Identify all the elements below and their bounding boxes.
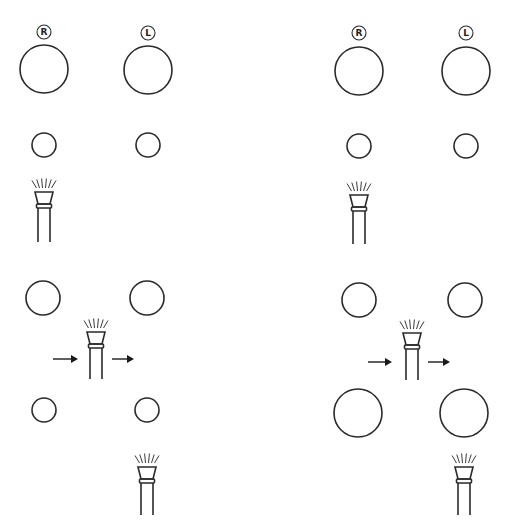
top-right-panel: R L	[335, 26, 490, 244]
badge-l: L	[141, 26, 155, 40]
badge-r: R	[352, 26, 366, 40]
small-circle-r	[32, 133, 56, 157]
nozzle-cup	[138, 467, 156, 479]
nozzle-collar	[352, 207, 367, 211]
small-circle-r	[32, 398, 56, 422]
large-circle-r	[335, 47, 383, 95]
arrow-right-icon	[368, 358, 392, 366]
badge-r-label: R	[41, 27, 48, 37]
badge-l-label: L	[145, 28, 151, 38]
spray-nozzle-icon	[135, 454, 159, 516]
top-left-panel: R L	[20, 25, 172, 242]
small-circle-r	[347, 134, 371, 158]
nozzle-collar	[37, 204, 52, 208]
nozzle-cup	[87, 332, 105, 344]
spray-rays	[84, 319, 108, 329]
badge-l-label: L	[463, 28, 469, 38]
badge-r: R	[37, 25, 51, 39]
spray-nozzle-icon	[452, 454, 476, 516]
nozzle-collar	[89, 344, 104, 348]
badge-l: L	[459, 26, 473, 40]
large-circle-r	[334, 389, 382, 437]
spray-nozzle-icon	[84, 319, 108, 380]
spray-nozzle-icon	[347, 182, 371, 245]
spray-rays	[32, 179, 56, 189]
spray-nozzle-icon	[400, 320, 424, 381]
medium-circle-r	[342, 283, 376, 317]
nozzle-cup	[403, 333, 421, 345]
nozzle-collar	[457, 479, 472, 483]
spray-rays	[135, 454, 159, 464]
arrow-right-icon	[112, 355, 134, 363]
arrow-right-icon	[53, 355, 78, 363]
medium-circle-l	[130, 281, 164, 315]
large-circle-r	[20, 45, 68, 93]
nozzle-cup	[35, 192, 53, 204]
diagram-canvas: R L R L	[0, 0, 505, 529]
small-circle-l	[135, 398, 159, 422]
nozzle-cup	[455, 467, 473, 479]
badge-r-label: R	[356, 28, 363, 38]
bottom-right-panel	[334, 283, 488, 515]
nozzle-collar	[405, 345, 420, 349]
medium-circle-l	[448, 283, 482, 317]
spray-rays	[400, 320, 424, 330]
nozzle-collar	[140, 479, 155, 483]
spray-rays	[452, 454, 476, 464]
spray-nozzle-icon	[32, 179, 56, 243]
large-circle-l	[442, 47, 490, 95]
large-circle-l	[440, 389, 488, 437]
medium-circle-r	[26, 281, 60, 315]
nozzle-cup	[350, 195, 368, 207]
small-circle-l	[454, 134, 478, 158]
bottom-left-panel	[26, 281, 164, 515]
spray-rays	[347, 182, 371, 192]
small-circle-l	[136, 133, 160, 157]
large-circle-l	[124, 46, 172, 94]
arrow-right-icon	[428, 358, 450, 366]
